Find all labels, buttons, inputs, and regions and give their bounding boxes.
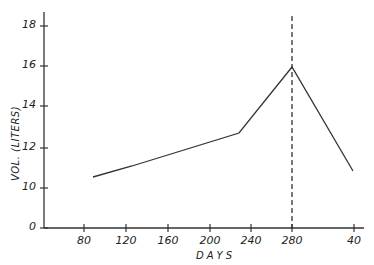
volume-line — [93, 67, 353, 177]
x-tick-label: 120 — [111, 234, 141, 247]
x-tick-label: 40 — [339, 234, 369, 247]
x-tick-label: 80 — [69, 234, 99, 247]
x-tick-label: 200 — [195, 234, 225, 247]
line-chart — [0, 0, 374, 265]
y-axis-title: VOL. (LITERS) — [10, 101, 21, 187]
y-tick-label: 0 — [12, 220, 36, 233]
x-tick-label: 160 — [153, 234, 183, 247]
x-tick-label: 280 — [277, 234, 307, 247]
x-axis-title: DAYS — [196, 250, 235, 261]
y-tick-label: 18 — [12, 18, 36, 31]
x-tick-label: 240 — [236, 234, 266, 247]
y-tick-label: 16 — [12, 58, 36, 71]
